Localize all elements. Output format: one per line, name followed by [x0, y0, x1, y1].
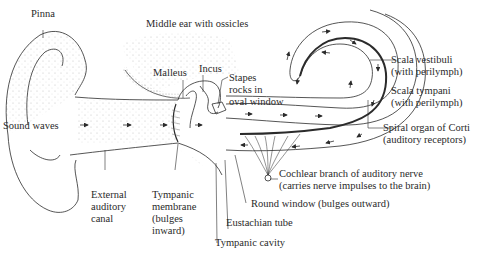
label-cochlear-nerve-line2: (carries nerve impulses to the brain): [279, 180, 430, 192]
label-spiral-organ-line1: Spiral organ of Corti: [383, 122, 470, 134]
label-stapes: Stapes rocks in oval window: [229, 72, 284, 108]
label-pinna: Pinna: [31, 8, 55, 20]
label-tympanic-membrane-line2: membrane: [152, 201, 196, 213]
label-stapes-line3: oval window: [229, 96, 284, 108]
middle-ear-floor: [178, 143, 222, 175]
label-external-canal: External auditory canal: [91, 189, 127, 225]
label-tympanic-membrane: Tympanic membrane (bulges inward): [152, 189, 196, 237]
ossicles: [178, 81, 226, 128]
label-external-canal-line1: External: [91, 189, 127, 201]
label-scala-vestibuli-line1: Scala vestibuli: [391, 54, 462, 66]
label-scala-vestibuli: Scala vestibuli (with perilymph): [391, 54, 462, 78]
label-scala-tympani: Scala tympani (with perilymph): [391, 85, 462, 109]
label-tympanic-cavity: Tympanic cavity: [215, 237, 285, 249]
label-scala-tympani-line2: (with perilymph): [391, 97, 462, 109]
label-cochlear-nerve-line1: Cochlear branch of auditory nerve: [279, 168, 430, 180]
label-stapes-line1: Stapes: [229, 72, 284, 84]
ear-anatomy-diagram: Pinna Middle ear with ossicles Malleus I…: [0, 0, 485, 255]
label-stapes-line2: rocks in: [229, 84, 284, 96]
label-tympanic-membrane-line3: (bulges: [152, 213, 196, 225]
label-spiral-organ-line2: (auditory receptors): [383, 134, 470, 146]
label-eustachian-tube: Eustachian tube: [226, 217, 293, 229]
label-external-canal-line2: auditory: [91, 201, 127, 213]
label-middle-ear: Middle ear with ossicles: [146, 18, 248, 30]
label-scala-tympani-line1: Scala tympani: [391, 85, 462, 97]
label-cochlear-nerve: Cochlear branch of auditory nerve (carri…: [279, 168, 430, 192]
label-scala-vestibuli-line2: (with perilymph): [391, 66, 462, 78]
external-auditory-canal: [70, 97, 178, 155]
label-round-window: Round window (bulges outward): [251, 198, 390, 210]
label-spiral-organ: Spiral organ of Corti (auditory receptor…: [383, 122, 470, 146]
label-malleus: Malleus: [153, 67, 187, 79]
label-tympanic-membrane-line1: Tympanic: [152, 189, 196, 201]
label-sound-waves: Sound waves: [3, 120, 59, 132]
label-external-canal-line3: canal: [91, 213, 127, 225]
label-tympanic-membrane-line4: inward): [152, 225, 196, 237]
label-incus: Incus: [199, 63, 222, 75]
